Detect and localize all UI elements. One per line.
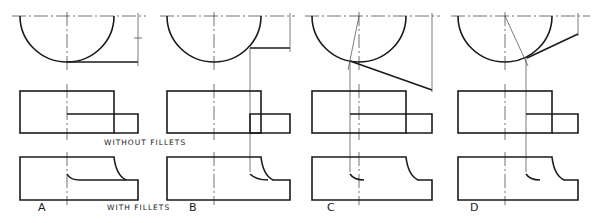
fillet-runout — [526, 174, 540, 180]
panel-label-d: D — [470, 201, 478, 214]
tangent-edge — [350, 61, 432, 90]
panel-d — [451, 12, 590, 205]
technical-drawing: .thick { stroke: #1a1a1a; stroke-width: … — [0, 0, 599, 223]
fillet-runout — [350, 174, 364, 180]
body-with-fillets — [458, 157, 578, 200]
body-with-fillets — [167, 157, 290, 200]
step-without-fillets — [67, 114, 138, 133]
panel-label-b: B — [189, 201, 197, 214]
fillet-runout — [250, 174, 268, 180]
fillet-runout — [67, 174, 126, 180]
caption-with-fillets: WITH FILLETS — [107, 203, 170, 212]
panel-label-a: A — [38, 201, 46, 214]
radius-construction-line — [505, 16, 528, 66]
step-without-fillets — [350, 114, 432, 133]
body-with-fillets — [312, 157, 432, 200]
step-without-fillets — [250, 114, 290, 133]
body-with-fillets — [20, 157, 138, 200]
panel-c — [305, 12, 440, 205]
panel-a — [12, 12, 146, 205]
panel-b — [160, 12, 295, 205]
caption-without-fillets: WITHOUT FILLETS — [104, 138, 186, 147]
tangent-edge — [527, 34, 578, 58]
panel-label-c: C — [327, 201, 335, 214]
